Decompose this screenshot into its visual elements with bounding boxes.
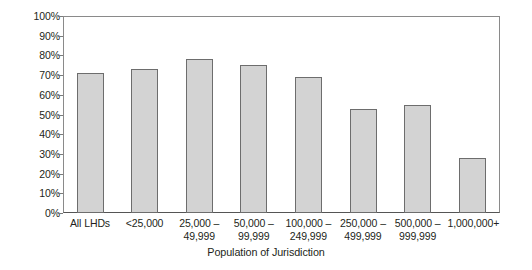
y-tick-label-20: 20%: [2, 168, 60, 179]
x-tick-label-all-lhds: All LHDs: [63, 217, 118, 230]
y-tick-mark-0: [58, 213, 63, 214]
y-tick-label-0: 0%: [2, 208, 60, 219]
bar-all-lhds[interactable]: [77, 73, 104, 213]
bar-50000-99999[interactable]: [240, 65, 267, 213]
x-tick-label-50000-99999: 50,000 – 99,999: [227, 217, 282, 242]
bar-1000000-plus[interactable]: [459, 158, 486, 213]
bar-100000-249999[interactable]: [295, 77, 322, 213]
x-tick-label-under-25000: <25,000: [117, 217, 172, 230]
bar-slot-3: [240, 16, 267, 213]
x-axis-title: Population of Jurisdiction: [0, 246, 532, 258]
x-tick-label-1000000-plus: 1,000,000+: [445, 217, 502, 230]
y-tick-label-80: 80%: [2, 50, 60, 61]
x-tick-label-25000-49999: 25,000 – 49,999: [172, 217, 227, 242]
bar-under-25000[interactable]: [131, 69, 158, 213]
y-tick-label-40: 40%: [2, 129, 60, 140]
y-tick-label-30: 30%: [2, 149, 60, 160]
bar-500000-999999[interactable]: [404, 105, 431, 213]
bar-slot-6: [404, 16, 431, 213]
bar-slot-0: [77, 16, 104, 213]
bars-layer: [63, 16, 500, 213]
y-tick-label-70: 70%: [2, 70, 60, 81]
x-tick-label-500000-999999: 500,000 – 999,999: [390, 217, 445, 242]
y-axis: 100% 90% 80% 70% 60% 50% 40% 30% 20% 10%…: [0, 0, 60, 270]
bar-25000-49999[interactable]: [186, 59, 213, 213]
y-tick-label-100: 100%: [2, 11, 60, 22]
bar-chart-figure: 100% 90% 80% 70% 60% 50% 40% 30% 20% 10%…: [0, 0, 532, 270]
y-tick-label-60: 60%: [2, 90, 60, 101]
y-tick-label-50: 50%: [2, 109, 60, 120]
bar-slot-2: [186, 16, 213, 213]
bar-slot-5: [350, 16, 377, 213]
x-tick-label-100000-249999: 100,000 – 249,999: [281, 217, 336, 242]
y-tick-label-10: 10%: [2, 188, 60, 199]
y-tick-label-90: 90%: [2, 30, 60, 41]
bar-slot-4: [295, 16, 322, 213]
bar-slot-1: [131, 16, 158, 213]
bar-slot-7: [459, 16, 486, 213]
x-tick-label-250000-499999: 250,000 – 499,999: [336, 217, 391, 242]
bar-250000-499999[interactable]: [350, 109, 377, 213]
